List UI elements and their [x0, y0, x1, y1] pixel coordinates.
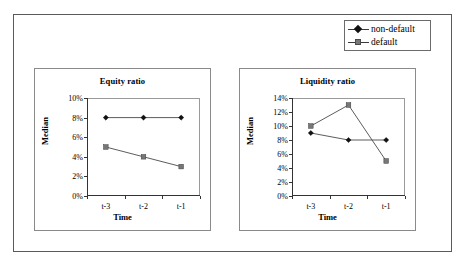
data-point-default [179, 164, 184, 169]
y-tick-mark [289, 98, 292, 99]
chart-panel-equity-ratio: Equity ratio Median 0%2%4%6%8%10%t-3t-2t… [34, 68, 211, 231]
y-tick-mark [84, 137, 87, 138]
y-tick-label: 4% [277, 164, 288, 173]
x-tick-label: t-1 [382, 202, 391, 211]
x-axis-label-liquidity-ratio: Time [240, 212, 415, 222]
legend-label-default: default [369, 36, 397, 49]
data-point-non-default [308, 130, 313, 135]
y-tick-label: 0% [277, 192, 288, 201]
x-tick-mark [162, 196, 163, 199]
y-tick-label: 6% [277, 150, 288, 159]
y-tick-mark [84, 176, 87, 177]
plot-area-liquidity-ratio: 0%2%4%6%8%10%12%14%t-3t-2t-1 [292, 98, 405, 196]
y-axis-label-liquidity-ratio: Median [245, 101, 255, 161]
x-axis-label-equity-ratio: Time [35, 212, 210, 222]
x-tick-label: t-2 [139, 202, 148, 211]
legend-label-non-default: non-default [369, 23, 415, 36]
y-tick-mark [84, 118, 87, 119]
x-tick-mark [87, 196, 88, 199]
y-tick-label: 2% [72, 172, 83, 181]
y-tick-mark [84, 157, 87, 158]
square-marker-icon [348, 37, 369, 48]
data-point-non-default [103, 115, 108, 120]
y-tick-mark [84, 98, 87, 99]
y-tick-label: 12% [273, 108, 288, 117]
y-axis-label-equity-ratio: Median [40, 101, 50, 161]
figure-root: non-default default Equity ratio Median … [0, 0, 465, 266]
x-tick-label: t-1 [177, 202, 186, 211]
x-tick-mark [330, 196, 331, 199]
legend-entry-default: default [348, 36, 430, 49]
y-tick-mark [289, 112, 292, 113]
data-point-non-default [141, 115, 146, 120]
y-tick-label: 10% [273, 122, 288, 131]
data-point-default [384, 159, 389, 164]
x-tick-label: t-3 [306, 202, 315, 211]
x-tick-mark [367, 196, 368, 199]
x-tick-mark [200, 196, 201, 199]
y-tick-label: 8% [72, 113, 83, 122]
chart-title-liquidity-ratio: Liquidity ratio [240, 76, 415, 86]
y-tick-mark [289, 126, 292, 127]
diamond-marker-icon [348, 24, 369, 35]
y-tick-label: 0% [72, 192, 83, 201]
y-tick-mark [289, 168, 292, 169]
x-tick-label: t-2 [344, 202, 353, 211]
chart-panel-liquidity-ratio: Liquidity ratio Median 0%2%4%6%8%10%12%1… [239, 68, 416, 231]
y-tick-label: 8% [277, 136, 288, 145]
series-line-default [311, 105, 386, 161]
x-tick-label: t-3 [101, 202, 110, 211]
y-tick-label: 6% [72, 133, 83, 142]
y-tick-mark [289, 154, 292, 155]
data-point-non-default [384, 137, 389, 142]
y-tick-label: 10% [68, 94, 83, 103]
series-layer-liquidity-ratio [292, 98, 405, 196]
x-tick-mark [125, 196, 126, 199]
y-tick-mark [289, 182, 292, 183]
legend-entry-non-default: non-default [348, 23, 430, 36]
x-tick-mark [405, 196, 406, 199]
data-point-default [104, 145, 109, 150]
series-layer-equity-ratio [87, 98, 200, 196]
plot-area-equity-ratio: 0%2%4%6%8%10%t-3t-2t-1 [87, 98, 200, 196]
data-point-non-default [179, 115, 184, 120]
data-point-default [309, 124, 314, 129]
y-tick-label: 2% [277, 178, 288, 187]
y-tick-label: 14% [273, 94, 288, 103]
chart-title-equity-ratio: Equity ratio [35, 76, 210, 86]
y-tick-label: 4% [72, 152, 83, 161]
y-tick-mark [289, 140, 292, 141]
data-point-default [346, 103, 351, 108]
chart-legend: non-default default [344, 20, 431, 51]
data-point-non-default [346, 137, 351, 142]
data-point-default [141, 155, 146, 160]
x-tick-mark [292, 196, 293, 199]
